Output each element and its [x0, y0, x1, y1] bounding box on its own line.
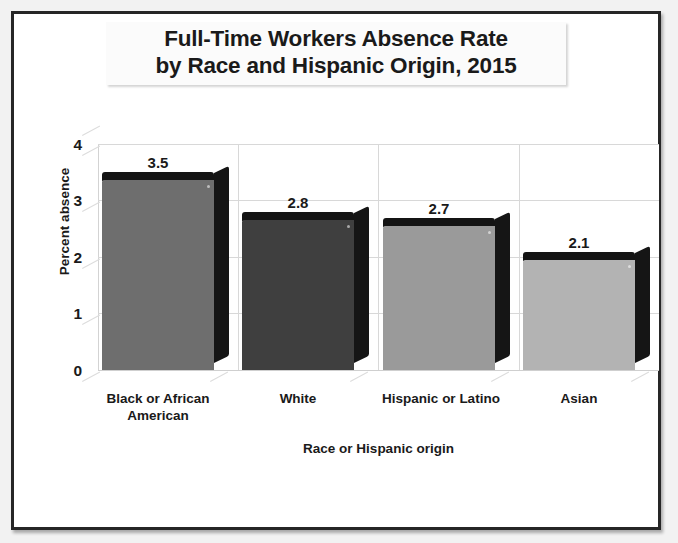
x-category-label-4: Asian [519, 391, 639, 408]
x-category-label-3-line-1: Hispanic or Latino [382, 391, 500, 406]
floor-separator-3 [491, 372, 509, 382]
bar-hispanic-or-latino[interactable] [383, 226, 495, 370]
x-axis-title: Race or Hispanic origin [98, 441, 659, 456]
depth-edge-0 [82, 372, 100, 382]
bar-highlight-2 [347, 225, 350, 228]
bar-highlight-3 [488, 231, 491, 234]
floor-separator-4 [631, 372, 649, 382]
wall-separator-3 [519, 144, 520, 370]
bar-white[interactable] [242, 220, 354, 370]
bar-side-face-1 [214, 166, 229, 363]
bar-front-face-2 [242, 220, 354, 370]
bar-value-label-1: 3.5 [102, 154, 214, 171]
bar-front-face-3 [383, 226, 495, 370]
bar-highlight-1 [207, 185, 210, 188]
bar-front-face-1 [102, 180, 214, 370]
x-category-label-2: White [238, 391, 358, 408]
bar-highlight-4 [628, 265, 631, 268]
bar-side-face-3 [495, 212, 510, 363]
floor-separator-1 [210, 372, 228, 382]
x-category-label-1-line-1: Black or African [106, 391, 209, 406]
x-category-label-2-line-1: White [280, 391, 317, 406]
y-tick-label-0: 0 [48, 362, 82, 380]
bar-side-face-4 [635, 246, 650, 363]
depth-edge-top [82, 126, 100, 136]
bar-asian[interactable] [523, 260, 635, 370]
bar-front-face-4 [523, 260, 635, 370]
bar-black-or-african-american[interactable] [102, 180, 214, 370]
wall-separator-2 [378, 144, 379, 370]
bar-side-face-2 [354, 206, 369, 363]
wall-separator-1 [238, 144, 239, 370]
x-category-label-4-line-1: Asian [561, 391, 598, 406]
chart-paper: Full-Time Workers Absence Rate by Race a… [11, 11, 661, 530]
bar-value-label-3: 2.7 [383, 200, 495, 217]
bar-value-label-2: 2.8 [242, 194, 354, 211]
x-category-label-3: Hispanic or Latino [360, 391, 522, 408]
x-category-label-1: Black or African American [88, 391, 228, 425]
chart-plot-area: 4 3 2 1 0 Percent absence 3.5 2.8 [14, 14, 664, 533]
axis-baseline [98, 370, 659, 371]
screenshot-canvas: Full-Time Workers Absence Rate by Race a… [0, 0, 678, 543]
floor-separator-2 [350, 372, 368, 382]
bar-value-label-4: 2.1 [523, 234, 635, 251]
x-category-label-1-line-2: American [127, 408, 189, 423]
y-axis-title: Percent absence [57, 132, 72, 312]
